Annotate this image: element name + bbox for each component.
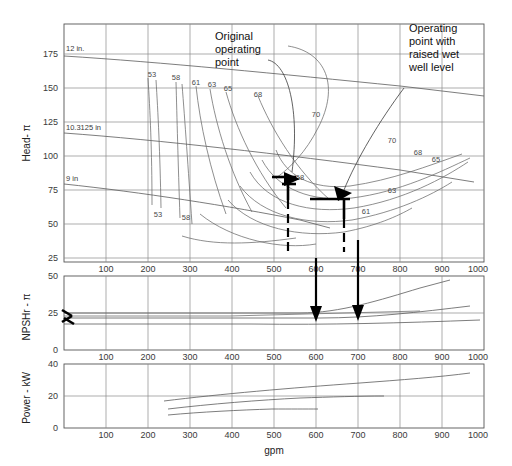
xtick-500-c: 500 — [266, 430, 281, 440]
pump-performance-figure: 175 150 125 100 75 50 25 Head- π 53 58 6… — [0, 0, 512, 466]
head-curve-10in — [64, 133, 474, 182]
xtick-400-a: 400 — [224, 264, 239, 274]
x-axis-title: gpm — [264, 445, 283, 456]
eff-label-68-top: 68 — [254, 90, 262, 99]
eff-label-58-bottom: 58 — [182, 213, 190, 222]
npshr-axis-title: NPSHr - π — [21, 293, 32, 340]
npshr-curve-upper — [64, 280, 450, 313]
eff-label-58-top: 58 — [172, 73, 180, 82]
eff-label-53-bottom: 53 — [154, 210, 162, 219]
xtick-400-b: 400 — [224, 352, 239, 362]
xtick-800-b: 800 — [392, 352, 407, 362]
npshr-panel: 50 25 0 NPSHr - π — [21, 240, 484, 355]
eff-label-70-top: 70 — [312, 110, 320, 119]
xtick-100-a: 100 — [98, 264, 113, 274]
xtick-100-b: 100 — [98, 352, 113, 362]
iso-eff-65 — [226, 92, 286, 208]
head-panel: 175 150 125 100 75 50 25 Head- π 53 58 6… — [21, 22, 484, 263]
npshr-xaxis-ticklabels: 100 200 300 400 500 600 700 800 900 1000 — [98, 352, 488, 362]
head-ytick-75: 75 — [48, 185, 58, 195]
head-ytick-50: 50 — [48, 219, 58, 229]
iso-eff-65-lobe — [250, 162, 468, 210]
annotation-original-operating-point: Original operating point — [215, 30, 261, 68]
xtick-200-b: 200 — [140, 352, 155, 362]
head-axis-title: Head- π — [21, 124, 32, 161]
eff-label-68-mid: 68 — [296, 173, 304, 182]
xtick-1000-b: 1000 — [468, 352, 488, 362]
iso-eff-53b — [156, 80, 161, 208]
xtick-800-a: 800 — [392, 264, 407, 274]
xtick-100-c: 100 — [98, 430, 113, 440]
iso-eff-61 — [196, 86, 226, 214]
head-ytick-125: 125 — [43, 117, 58, 127]
power-xaxis-ticklabels: 100 200 300 400 500 600 700 800 900 1000 — [98, 430, 488, 440]
power-panel: 40 20 0 Power - kW — [21, 359, 484, 433]
xtick-600-c: 600 — [308, 430, 323, 440]
xtick-900-b: 900 — [434, 352, 449, 362]
iso-eff-58 — [176, 82, 180, 218]
eff-label-70-right: 70 — [388, 136, 396, 145]
impeller-label-9in: 9 in — [66, 174, 78, 183]
eff-label-53-top: 53 — [148, 70, 156, 79]
iso-eff-61-lobe — [228, 200, 412, 234]
power-curve-12in — [164, 373, 470, 401]
xtick-900-c: 900 — [434, 430, 449, 440]
head-ytick-150: 150 — [43, 83, 58, 93]
xtick-500-b: 500 — [266, 352, 281, 362]
anno-original-line3: point — [215, 56, 239, 68]
xtick-200-a: 200 — [140, 264, 155, 274]
xtick-200-c: 200 — [140, 430, 155, 440]
xtick-400-c: 400 — [224, 430, 239, 440]
xtick-800-c: 800 — [392, 430, 407, 440]
xtick-1000-a: 1000 — [468, 264, 488, 274]
iso-eff-70-closed — [276, 46, 328, 178]
power-ytick-0: 0 — [53, 423, 58, 433]
iso-eff-53 — [148, 78, 152, 205]
eff-label-61-top: 61 — [192, 78, 200, 87]
power-gridlines — [64, 364, 484, 428]
xtick-1000-c: 1000 — [468, 430, 488, 440]
head-ytick-100: 100 — [43, 151, 58, 161]
annotation-raised-wet-well: Operating point with raised wet well lev… — [408, 22, 459, 73]
anno-raised-line1: Operating — [409, 22, 457, 34]
drop-arrow-raised — [352, 240, 364, 321]
head-ytick-175: 175 — [43, 49, 58, 59]
eff-label-65-right: 65 — [432, 155, 440, 164]
eff-label-61-right: 61 — [362, 207, 370, 216]
npshr-ytick-0: 0 — [53, 345, 58, 355]
eff-label-65-top: 65 — [224, 84, 232, 93]
anno-original-line2: operating — [215, 43, 261, 55]
eff-label-63-top: 63 — [208, 80, 216, 89]
xtick-900-a: 900 — [434, 264, 449, 274]
iso-eff-lowest — [182, 236, 296, 243]
xtick-300-a: 300 — [182, 264, 197, 274]
anno-raised-line4: well level — [408, 61, 454, 73]
head-ytick-25: 25 — [48, 253, 58, 263]
eff-label-63-right: 63 — [388, 186, 396, 195]
eff-label-68-right: 68 — [414, 148, 422, 157]
npshr-curve-dash — [64, 311, 420, 316]
anno-raised-line2: point with — [409, 35, 455, 47]
anno-raised-line3: raised wet — [409, 48, 459, 60]
xtick-600-b: 600 — [308, 352, 323, 362]
power-curve-9in — [168, 409, 318, 415]
impeller-label-12in: 12 in. — [66, 44, 84, 53]
power-axis-title: Power - kW — [21, 372, 32, 424]
xtick-700-b: 700 — [350, 352, 365, 362]
npshr-curve-lower — [64, 320, 480, 324]
xtick-300-c: 300 — [182, 430, 197, 440]
figure-svg: 175 150 125 100 75 50 25 Head- π 53 58 6… — [0, 0, 512, 466]
power-ytick-20: 20 — [48, 391, 58, 401]
xtick-300-b: 300 — [182, 352, 197, 362]
xtick-700-c: 700 — [350, 430, 365, 440]
head-curve-9in — [64, 184, 330, 228]
power-ytick-40: 40 — [48, 359, 58, 369]
anno-original-line1: Original — [215, 30, 253, 42]
impeller-label-10in: 10.3125 in — [66, 123, 101, 132]
npshr-ytick-25: 25 — [48, 308, 58, 318]
xtick-500-a: 500 — [266, 264, 281, 274]
head-xaxis-ticklabels: 100 200 300 400 500 600 700 800 900 1000 — [98, 264, 488, 274]
iso-eff-58b — [182, 84, 192, 224]
npshr-ytick-50: 50 — [48, 271, 58, 281]
power-curve-10in — [168, 396, 384, 409]
